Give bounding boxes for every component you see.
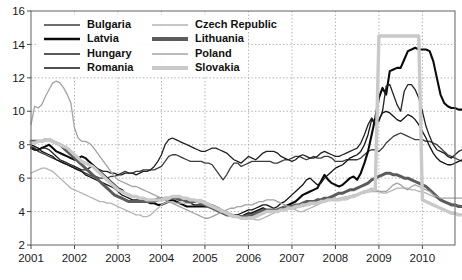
legend-label-latvia: Latvia bbox=[87, 32, 120, 44]
x-tick-label: 2006 bbox=[236, 252, 262, 264]
chart-root: 1614121086422001200220032004200520062007… bbox=[0, 0, 462, 280]
legend-label-romania: Romania bbox=[87, 61, 134, 73]
x-tick-label: 2007 bbox=[279, 252, 305, 264]
y-tick-label: 2 bbox=[19, 239, 25, 251]
legend-label-lithuania: Lithuania bbox=[195, 32, 245, 44]
chart-canvas: 1614121086422001200220032004200520062007… bbox=[0, 0, 462, 280]
y-tick-label: 14 bbox=[12, 39, 25, 51]
series-line-poland bbox=[31, 81, 462, 218]
y-tick-label: 12 bbox=[12, 72, 25, 84]
legend-label-poland: Poland bbox=[195, 47, 232, 59]
x-tick-label: 2002 bbox=[62, 252, 88, 264]
x-tick-label: 2010 bbox=[410, 252, 436, 264]
x-tick-label: 2001 bbox=[18, 252, 44, 264]
x-tick-label: 2009 bbox=[366, 252, 392, 264]
series-line-bulgaria bbox=[31, 133, 462, 180]
x-tick-label: 2008 bbox=[323, 252, 349, 264]
legend-label-bulgaria: Bulgaria bbox=[87, 18, 132, 30]
y-tick-label: 4 bbox=[19, 206, 26, 218]
x-tick-label: 2004 bbox=[149, 252, 175, 264]
y-tick-label: 16 bbox=[12, 5, 25, 17]
y-tick-label: 10 bbox=[12, 105, 25, 117]
legend-label-czech-republic: Czech Republic bbox=[195, 18, 277, 30]
legend-label-slovakia: Slovakia bbox=[195, 61, 241, 73]
x-tick-label: 2003 bbox=[105, 252, 131, 264]
x-tick-label: 2005 bbox=[192, 252, 218, 264]
series-line-hungary bbox=[31, 85, 462, 175]
line-chart: 1614121086422001200220032004200520062007… bbox=[0, 0, 462, 280]
y-tick-label: 8 bbox=[19, 139, 25, 151]
y-tick-label: 6 bbox=[19, 172, 25, 184]
legend-label-hungary: Hungary bbox=[87, 47, 133, 59]
